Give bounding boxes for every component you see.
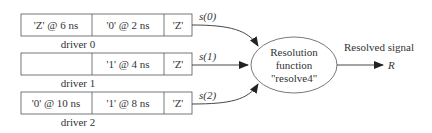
output-caption: Resolved signal [344,41,414,53]
driver-2-label: driver 2 [61,116,96,128]
driver-2-cell-0: '0' @ 10 ns [32,97,81,109]
signal-0-label: s(0) [199,10,216,23]
signal-0-arrow [192,25,258,46]
driver-0-label: driver 0 [61,38,96,50]
driver-1: '1' @ 4 ns 'Z' driver 1 [21,53,192,89]
driver-2: '0' @ 10 ns '1' @ 8 ns 'Z' driver 2 [21,92,192,128]
driver-1-label: driver 1 [61,77,96,89]
driver-0: 'Z' @ 6 ns '0' @ 2 ns 'Z' driver 0 [21,14,192,50]
resolution-line-1: Resolution [270,46,318,58]
diagram-canvas: 'Z' @ 6 ns '0' @ 2 ns 'Z' driver 0 '1' @… [0,0,432,133]
signal-2-label: s(2) [199,89,216,102]
resolution-line-2: function [276,59,313,71]
driver-1-cell-2: 'Z' [173,58,184,70]
driver-0-cell-1: '0' @ 2 ns [106,19,149,31]
signal-1-label: s(1) [199,50,216,63]
driver-0-cell-0: 'Z' @ 6 ns [34,19,78,31]
driver-0-cell-2: 'Z' [173,19,184,31]
resolution-line-3: "resolve4" [271,72,317,84]
output-signal-name: R [387,59,395,71]
driver-1-cell-1: '1' @ 4 ns [106,58,149,70]
driver-2-cell-2: 'Z' [173,97,184,109]
resolution-diagram: 'Z' @ 6 ns '0' @ 2 ns 'Z' driver 0 '1' @… [0,0,432,133]
driver-2-cell-1: '1' @ 8 ns [106,97,149,109]
